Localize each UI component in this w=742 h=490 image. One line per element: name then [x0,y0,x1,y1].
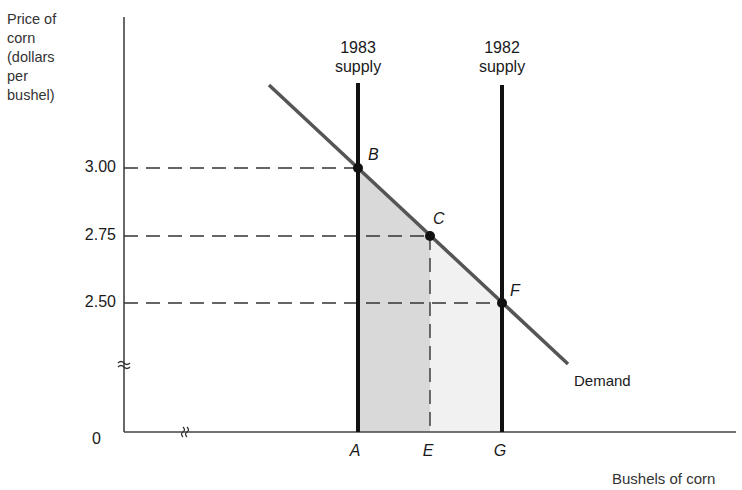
y-tick-250: 2.50 [56,293,116,311]
point-b-label: B [368,146,379,164]
origin-label: 0 [92,430,101,448]
point-f-label: F [510,282,520,300]
supply-1982-label: 1982 supply [462,38,542,76]
point-b [353,163,363,173]
x-axis-label: Bushels of corn [612,470,715,487]
shaded-area-a-to-e [358,168,430,432]
x-tick-g: G [490,442,510,460]
point-c [425,231,435,241]
y-tick-300: 3.00 [56,158,116,176]
supply-1983-label: 1983 supply [318,38,398,76]
x-tick-a: A [345,442,365,460]
y-axis-label: Price of corn (dollars per bushel) [7,10,56,105]
y-tick-275: 2.75 [56,226,116,244]
x-tick-e: E [418,442,438,460]
point-c-label: C [433,210,445,228]
demand-label: Demand [574,372,631,389]
point-f [497,298,507,308]
shaded-area-e-to-g [430,236,502,432]
